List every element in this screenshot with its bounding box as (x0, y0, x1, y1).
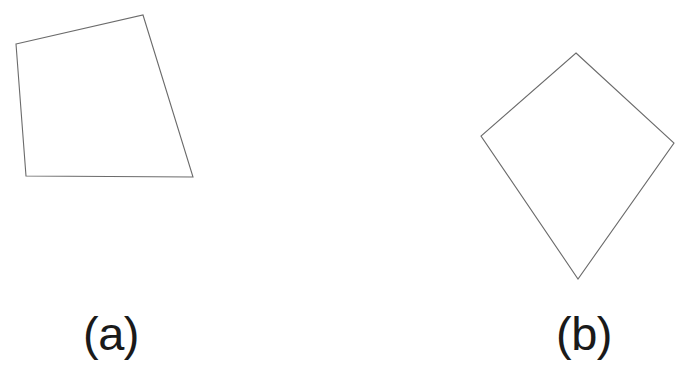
figure-caption-b: (b) (534, 310, 634, 357)
figure-caption-a: (a) (61, 310, 161, 357)
